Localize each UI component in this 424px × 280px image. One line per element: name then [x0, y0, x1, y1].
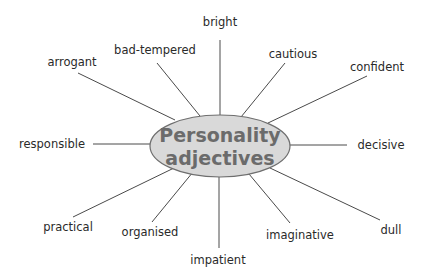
spoke-confident	[268, 76, 367, 123]
node-imaginative: imaginative	[266, 228, 334, 242]
node-practical: practical	[43, 220, 93, 234]
spoke-bad-tempered	[157, 63, 200, 116]
spoke-dull	[270, 168, 380, 220]
node-responsible: responsible	[19, 137, 85, 151]
spoke-practical	[73, 168, 174, 217]
node-decisive: decisive	[358, 138, 405, 152]
node-bright: bright	[203, 15, 238, 29]
node-impatient: impatient	[190, 253, 246, 267]
spoke-cautious	[241, 63, 285, 117]
node-organised: organised	[122, 225, 179, 239]
center-title-line1: Personality	[159, 124, 281, 146]
personality-adjectives-mind-map: Personality adjectives bright cautious c…	[0, 0, 424, 280]
node-cautious: cautious	[269, 47, 318, 61]
center-node: Personality adjectives	[150, 115, 290, 177]
spoke-organised	[152, 172, 193, 222]
node-bad-tempered: bad-tempered	[114, 43, 196, 57]
node-arrogant: arrogant	[47, 55, 97, 69]
spoke-imaginative	[249, 174, 290, 223]
spoke-arrogant	[78, 73, 175, 120]
node-dull: dull	[381, 223, 402, 237]
center-title-line2: adjectives	[165, 147, 274, 169]
node-confident: confident	[350, 60, 405, 74]
